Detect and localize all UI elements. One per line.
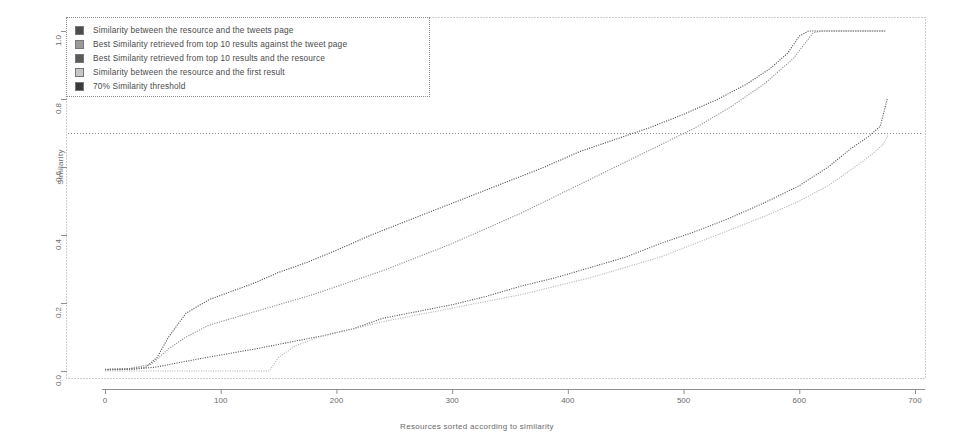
x-tick-label: 600 [793,396,806,405]
x-tick-label: 700 [908,396,921,405]
legend-label: 70% Similarity threshold [93,81,186,91]
legend-swatch-icon [75,40,84,49]
legend-label: Best Similarity retrieved from top 10 re… [93,53,325,63]
y-tick-label: 0.0 [54,370,63,392]
x-tick-label: 500 [677,396,690,405]
legend-item: Best Similarity retrieved from top 10 re… [75,51,423,65]
legend-label: Similarity between the resource and the … [93,25,293,35]
y-tick-label: 0.6 [54,166,63,188]
legend-item: Similarity between the resource and the … [75,23,423,37]
x-tick-label: 0 [103,396,107,405]
chart-legend: Similarity between the resource and the … [66,17,430,97]
series-line-4 [105,135,888,371]
x-axis-label-wrapper: Resources sorted according to similarity [0,415,954,433]
x-tick-label: 200 [330,396,343,405]
x-tick-label: 400 [561,396,574,405]
legend-label: Similarity between the resource and the … [93,67,285,77]
y-tick-label: 0.8 [54,98,63,120]
x-tick-label: 100 [214,396,227,405]
y-tick-label: 0.4 [54,234,63,256]
legend-swatch-icon [75,68,84,77]
x-tick-label: 300 [445,396,458,405]
y-tick-label: 0.2 [54,302,63,324]
legend-swatch-icon [75,26,84,35]
legend-item: Similarity between the resource and the … [75,65,423,79]
legend-swatch-icon [75,54,84,63]
legend-label: Best Similarity retrieved from top 10 re… [93,39,347,49]
legend-item: Best Similarity retrieved from top 10 re… [75,37,423,51]
legend-swatch-icon [75,82,84,91]
series-line-3 [105,99,887,370]
y-tick-label: 1.0 [54,30,63,52]
legend-item: 70% Similarity threshold [75,79,423,93]
x-axis-label: Resources sorted according to similarity [400,422,554,431]
chart-figure: Similarity Resources sorted according to… [0,0,954,446]
